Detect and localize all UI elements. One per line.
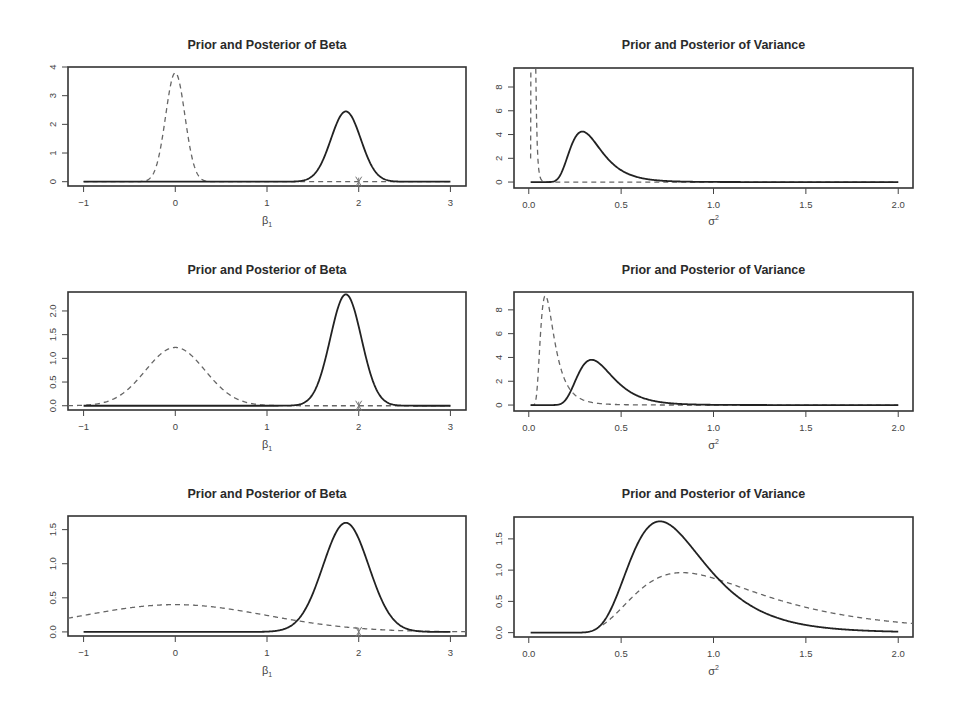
y-tick-label: 1.5 (493, 532, 504, 545)
x-tick-label: 0.0 (522, 648, 535, 659)
x-tick-label: 1.5 (799, 648, 812, 659)
y-tick-label: 0.0 (493, 626, 504, 639)
posterior-curve (531, 521, 899, 632)
plot-area: 0.00.51.01.52.00.00.51.01.5 (0, 0, 962, 718)
x-tick-label: 2.0 (892, 648, 905, 659)
y-tick-label: 0.5 (493, 595, 504, 608)
x-tick-label: 0.5 (615, 648, 628, 659)
plot-frame (514, 517, 913, 637)
y-tick-label: 1.0 (493, 564, 504, 577)
prior-curve (603, 573, 913, 625)
x-tick-label: 1.0 (707, 648, 720, 659)
